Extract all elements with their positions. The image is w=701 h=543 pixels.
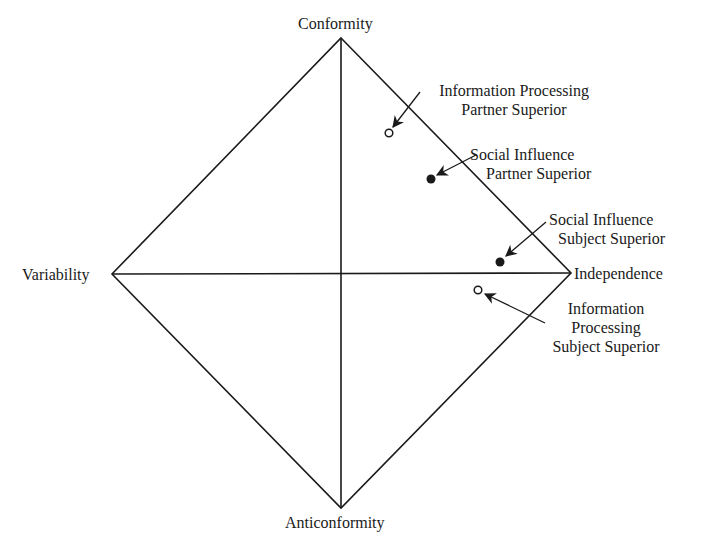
point-ip-partner-open-marker	[385, 129, 393, 137]
label-ip-partner: Information Processing Partner Superior	[422, 81, 606, 119]
point-si-subject-filled-marker	[496, 258, 505, 267]
label-si-subject: Social Influence Subject Superior	[549, 210, 665, 248]
arrow-ip-partner	[393, 92, 420, 127]
label-si-subject-line2: Subject Superior	[549, 229, 665, 248]
label-si-subject-line1: Social Influence	[549, 210, 665, 229]
label-si-partner-line1: Social Influence	[470, 145, 630, 164]
label-anticonformity: Anticonformity	[285, 513, 385, 532]
label-ip-partner-line1: Information Processing	[422, 81, 606, 100]
label-ip-subject-line1: Information	[541, 299, 671, 318]
label-ip-subject-line3: Subject Superior	[541, 337, 671, 356]
label-ip-partner-line2: Partner Superior	[422, 100, 606, 119]
label-ip-subject: Information Processing Subject Superior	[541, 299, 671, 356]
point-si-partner-filled-marker	[427, 175, 436, 184]
label-conformity: Conformity	[298, 14, 373, 33]
label-si-partner: Social Influence Partner Superior	[470, 145, 630, 183]
label-variability: Variability	[22, 265, 90, 284]
label-ip-subject-line2: Processing	[541, 318, 671, 337]
point-ip-subject-open-marker	[474, 286, 482, 294]
horizontal-axis	[112, 273, 571, 274]
label-si-partner-line2: Partner Superior	[470, 164, 630, 183]
label-independence: Independence	[574, 264, 663, 283]
